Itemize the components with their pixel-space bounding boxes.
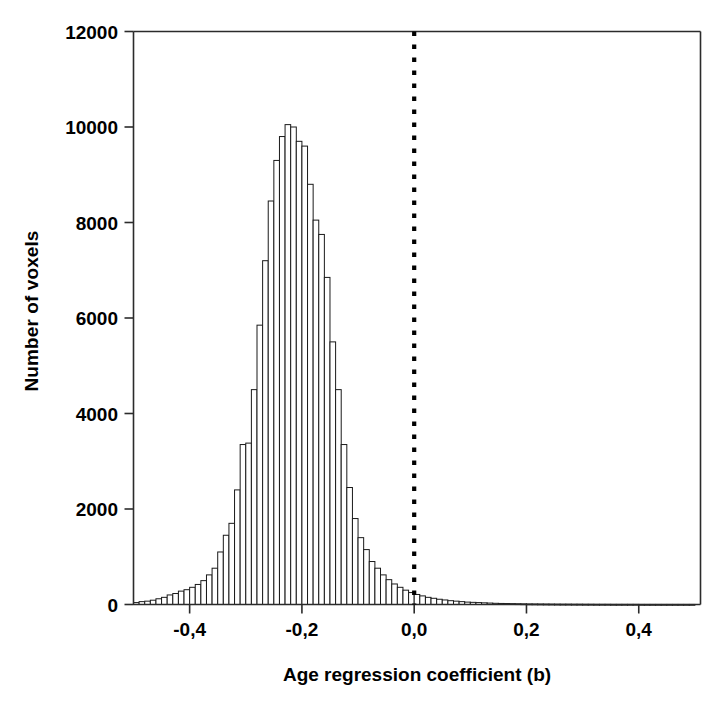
histogram-bar xyxy=(375,568,381,604)
histogram-figure: Number of voxels Age regression coeffici… xyxy=(0,0,718,704)
axis-frame xyxy=(134,32,701,605)
histogram-bar xyxy=(403,590,409,604)
histogram-bar xyxy=(358,538,364,605)
histogram-bar xyxy=(167,595,173,605)
histogram-bar xyxy=(257,325,263,604)
histogram-bar xyxy=(336,390,342,605)
y-axis-tick-label: 10000 xyxy=(32,118,118,137)
histogram-bar xyxy=(324,277,330,604)
histogram-bar xyxy=(195,584,201,604)
histogram-bar xyxy=(235,490,241,605)
histogram-bar xyxy=(173,594,179,605)
histogram-bar xyxy=(313,220,319,604)
histogram-bar xyxy=(240,445,246,605)
histogram-bar xyxy=(296,141,302,604)
histogram-bar xyxy=(178,591,184,604)
histogram-bar xyxy=(347,488,353,605)
x-axis-tick-labels: -0,4-0,20,00,20,4 xyxy=(0,620,718,650)
histogram-bar xyxy=(263,261,269,605)
histogram-bar xyxy=(218,552,224,605)
y-axis-tick-label: 8000 xyxy=(32,213,118,232)
x-axis-title: Age regression coefficient (b) xyxy=(133,664,701,686)
histogram-bar xyxy=(201,581,207,605)
histogram-bar xyxy=(268,201,274,604)
y-axis-tick-label: 6000 xyxy=(32,309,118,328)
histogram-bar xyxy=(223,535,229,604)
histogram-bar xyxy=(302,146,308,604)
y-axis-tick-label: 2000 xyxy=(32,500,118,519)
axis-ticks xyxy=(125,32,639,614)
histogram-bar xyxy=(162,597,168,604)
histogram-bar xyxy=(330,342,336,605)
histogram-bar xyxy=(291,127,297,605)
histogram-bar xyxy=(319,234,325,604)
histogram-bar xyxy=(251,390,257,605)
histogram-bar xyxy=(246,443,252,604)
x-axis-tick-label: 0,2 xyxy=(513,620,539,639)
histogram-bar xyxy=(190,587,196,604)
histogram-bar xyxy=(364,550,370,605)
y-axis-tick-label: 12000 xyxy=(32,22,118,41)
histogram-bar xyxy=(425,597,431,604)
histogram-bar xyxy=(285,125,291,605)
histogram-bar xyxy=(386,580,392,605)
histogram-bar xyxy=(431,598,437,604)
x-axis-tick-label: 0,0 xyxy=(401,620,427,639)
y-axis-tick-label: 0 xyxy=(32,595,118,614)
histogram-bar xyxy=(381,575,387,605)
histogram-bar xyxy=(184,590,190,605)
histogram-bar xyxy=(397,587,403,604)
x-axis-tick-label: -0,4 xyxy=(173,620,206,639)
histogram-bars xyxy=(134,125,695,606)
histogram-bar xyxy=(341,445,347,605)
histogram-bar xyxy=(308,184,314,604)
histogram-bar xyxy=(392,584,398,605)
histogram-bar xyxy=(414,594,420,604)
histogram-bar xyxy=(274,160,280,604)
histogram-bar xyxy=(420,596,426,605)
histogram-bar xyxy=(279,137,285,605)
y-axis-tick-labels: 020004000600080001000012000 xyxy=(32,0,118,704)
histogram-bar xyxy=(212,568,218,604)
histogram-bar xyxy=(369,562,375,605)
x-axis-tick-label: 0,4 xyxy=(626,620,652,639)
histogram-bar xyxy=(206,575,212,605)
histogram-bar xyxy=(156,599,162,605)
histogram-bar xyxy=(352,519,358,605)
y-axis-tick-label: 4000 xyxy=(32,404,118,423)
histogram-bar xyxy=(229,523,235,604)
x-axis-tick-label: -0,2 xyxy=(286,620,319,639)
